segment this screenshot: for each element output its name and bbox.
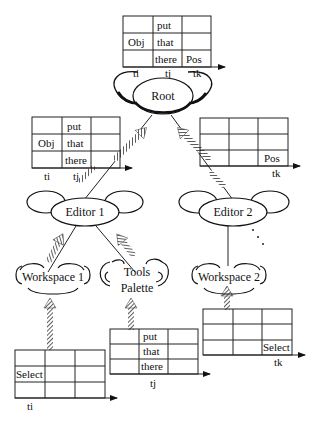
editor2-cell-pos: Pos <box>264 152 280 164</box>
diagram-canvas: put Obj that there Pos ti tj tk Root put… <box>0 0 321 426</box>
tools-palette-label-line1: Tools <box>124 265 151 279</box>
tools-cell-put: put <box>143 330 157 342</box>
root-cell-there: there <box>155 53 177 65</box>
hatched-arrow-editor1-to-root <box>110 123 151 164</box>
edge-editor2-more-dotted <box>252 229 264 245</box>
editor2-node-label: Editor 2 <box>214 205 253 219</box>
hatched-arrow-toolstable-to-tools <box>125 298 137 330</box>
workspace1-cell-select: Select <box>16 368 43 380</box>
editor1-axis-ti: ti <box>44 170 50 182</box>
edge-root-editor2 <box>171 115 233 200</box>
workspace1-axis-ti: ti <box>27 400 33 412</box>
editor1-cell-put: put <box>67 120 81 132</box>
tools-axis-tj: tj <box>150 377 156 389</box>
editor2-axis-tk: tk <box>272 167 281 179</box>
hatched-arrow-editor2-lower <box>208 170 226 188</box>
tools-cell-that: that <box>143 345 160 357</box>
editor1-node[interactable]: Editor 1 <box>27 191 143 226</box>
hatched-arrow-ws2table-to-workspace2 <box>221 286 233 310</box>
workspace1-node[interactable]: Workspace 1 <box>16 264 90 294</box>
hatched-arrow-tools-to-editor1 <box>112 230 139 259</box>
workspace2-axis-tk: tk <box>274 356 283 368</box>
editor1-axis-tj: tj <box>73 170 79 182</box>
workspace1-node-label: Workspace 1 <box>22 270 84 284</box>
workspace2-cell-select: Select <box>263 341 290 353</box>
tools-palette-node[interactable]: Tools Palette <box>100 259 168 295</box>
editor1-node-label: Editor 1 <box>66 205 105 219</box>
editor1-cell-that: that <box>67 137 84 149</box>
editor1-cell-obj: Obj <box>38 137 55 149</box>
root-cell-put: put <box>157 19 171 31</box>
tools-cell-there: there <box>141 360 163 372</box>
root-cell-obj: Obj <box>128 36 145 48</box>
workspace2-node-label: Workspace 2 <box>198 270 260 284</box>
root-cell-pos: Pos <box>186 53 202 65</box>
editor1-cell-there: there <box>65 154 87 166</box>
root-axis-ti: ti <box>133 67 139 79</box>
root-node-label: Root <box>151 89 175 103</box>
editor2-node[interactable]: Editor 2 <box>179 191 289 226</box>
root-axis-tj: tj <box>165 67 171 79</box>
hatched-arrow-editor2-to-root <box>173 123 214 164</box>
hatched-arrow-ws1table-to-workspace1 <box>44 298 56 350</box>
tools-palette-label-line2: Palette <box>121 281 154 295</box>
root-cell-that: that <box>157 36 174 48</box>
